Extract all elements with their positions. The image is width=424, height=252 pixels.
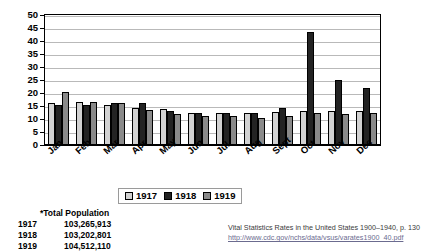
source-citation-text: Vital Statistics Rates in the United Sta…: [228, 223, 424, 233]
y-axis-tick-label: 40: [2, 37, 38, 45]
population-row: 1919104,512,110: [18, 241, 218, 252]
x-axis-label-cell: Jan: [44, 146, 72, 180]
plot-canvas: [45, 15, 380, 145]
population-year: 1919: [18, 241, 64, 252]
y-axis-tick-label: 45: [2, 24, 38, 32]
population-value: 103,202,801: [64, 230, 111, 241]
chart-page: 05101520253035404550 JanFebMarAprMayJunJ…: [0, 0, 424, 252]
bar-group: [352, 15, 380, 145]
y-axis-tick-label: 50: [2, 11, 38, 19]
bar-group: [324, 15, 352, 145]
x-axis-label-cell: Sept: [269, 146, 297, 180]
x-axis-label-cell: Oct: [297, 146, 325, 180]
bar-group: [101, 15, 129, 145]
population-value: 104,512,110: [64, 241, 111, 252]
population-note-title: *Total Population: [40, 208, 218, 219]
legend-item[interactable]: 1917: [125, 191, 157, 201]
x-axis-label-cell: Feb: [72, 146, 100, 180]
legend-label: 1918: [175, 191, 196, 201]
population-note: *Total Population 1917103,265,9131918103…: [18, 208, 218, 252]
x-axis-label-cell: Jun: [184, 146, 212, 180]
bar[interactable]: [118, 103, 125, 145]
bar[interactable]: [62, 92, 69, 145]
population-year: 1918: [18, 230, 64, 241]
legend-item[interactable]: 1918: [164, 191, 196, 201]
bar[interactable]: [314, 113, 321, 146]
x-axis-label-cell: Nov: [325, 146, 353, 180]
population-value: 103,265,913: [64, 219, 111, 230]
y-axis: 05101520253035404550: [0, 10, 44, 146]
y-axis-tick-label: 25: [2, 76, 38, 84]
bar-group: [185, 15, 213, 145]
bar-group: [45, 15, 73, 145]
y-axis-tick-label: 30: [2, 63, 38, 71]
x-axis-label-cell: Aug: [241, 146, 269, 180]
legend-swatch: [125, 192, 133, 200]
y-axis-tick-label: 20: [2, 89, 38, 97]
legend-swatch: [203, 192, 211, 200]
chart-plot-area: [44, 14, 381, 146]
bar-group: [73, 15, 101, 145]
y-axis-tick-label: 10: [2, 115, 38, 123]
bar-groups: [45, 15, 380, 145]
x-axis-label-cell: Jul: [212, 146, 240, 180]
bar-group: [157, 15, 185, 145]
bar[interactable]: [307, 32, 314, 145]
y-axis-tick-label: 15: [2, 102, 38, 110]
bar-group: [296, 15, 324, 145]
bar[interactable]: [202, 116, 209, 145]
x-axis-label-cell: Mar: [100, 146, 128, 180]
y-axis-tick-label: 5: [2, 128, 38, 136]
legend-swatch: [164, 192, 172, 200]
bar[interactable]: [146, 110, 153, 145]
population-note-rows: 1917103,265,9131918103,202,8011919104,51…: [18, 219, 218, 252]
population-row: 1917103,265,913: [18, 219, 218, 230]
chart-legend: 191719181919: [118, 188, 242, 204]
legend-label: 1917: [136, 191, 157, 201]
population-row: 1918103,202,801: [18, 230, 218, 241]
source-citation: Vital Statistics Rates in the United Sta…: [228, 223, 424, 243]
y-axis-tick-label: 0: [2, 141, 38, 149]
x-axis: JanFebMarAprMayJunJulAugSeptOctNovDec: [44, 146, 381, 180]
source-url-link[interactable]: http://www.cdc.gov/nchs/data/vsus/varate…: [228, 233, 424, 243]
bar-group: [129, 15, 157, 145]
bar-group: [213, 15, 241, 145]
bar[interactable]: [90, 102, 97, 145]
y-axis-tick-label: 35: [2, 50, 38, 58]
x-axis-label-cell: May: [156, 146, 184, 180]
population-year: 1917: [18, 219, 64, 230]
legend-item[interactable]: 1919: [203, 191, 235, 201]
bar[interactable]: [230, 116, 237, 145]
x-axis-label-cell: Apr: [128, 146, 156, 180]
x-axis-label-cell: Dec: [353, 146, 381, 180]
legend-label: 1919: [214, 191, 235, 201]
bar-group: [268, 15, 296, 145]
bar-group: [240, 15, 268, 145]
